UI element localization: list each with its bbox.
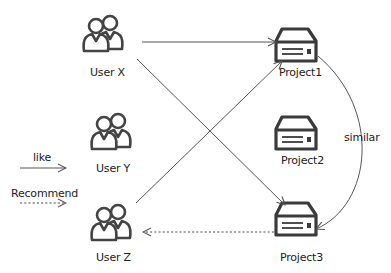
user-z-label: User Z bbox=[96, 251, 131, 264]
project1-server-icon bbox=[276, 29, 316, 61]
user-z-icon bbox=[92, 205, 131, 240]
legend-like-label: like bbox=[33, 151, 51, 164]
diagram-canvas bbox=[0, 0, 391, 273]
edge-userx-project3 bbox=[137, 59, 285, 205]
project1-label: Project1 bbox=[279, 66, 322, 79]
legend-recommend-label: Recommend bbox=[11, 187, 78, 200]
similar-label: similar bbox=[344, 131, 379, 144]
project3-label: Project3 bbox=[280, 251, 323, 264]
user-x-icon bbox=[84, 16, 123, 51]
user-x-label: User X bbox=[90, 66, 125, 79]
edge-userz-project1 bbox=[136, 61, 282, 203]
project3-server-icon bbox=[276, 203, 316, 235]
user-y-icon bbox=[92, 114, 131, 149]
user-y-label: User Y bbox=[96, 162, 130, 175]
project2-server-icon bbox=[276, 117, 316, 149]
project2-label: Project2 bbox=[281, 154, 324, 167]
